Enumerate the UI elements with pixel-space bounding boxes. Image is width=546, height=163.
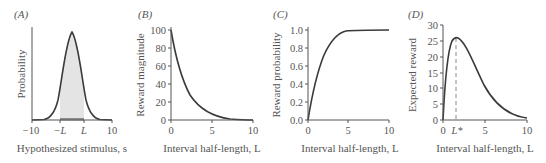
x-axis-label: Interval half-length, L (301, 142, 399, 154)
x-tick: −L (54, 125, 67, 136)
y-tick: 10 (428, 83, 439, 94)
x-tick: −10 (23, 125, 39, 136)
y-tick: 15 (428, 68, 439, 79)
panel-b: (B) 100 80 60 40 20 0 0 5 10 Interval ha… (134, 8, 261, 154)
y-axis-label: Reward probability (270, 32, 282, 118)
reward-probability-curve (308, 30, 389, 120)
x-tick: 0 (440, 125, 445, 136)
x-tick: 5 (345, 125, 350, 136)
y-tick: 1.0 (290, 25, 303, 36)
panel-d: (D) 30 25 20 15 10 5 0 0 L* 5 10 Interva… (406, 8, 534, 154)
x-tick: 0 (168, 125, 173, 136)
y-tick: 0.6 (290, 61, 303, 72)
y-axis-label: Probability (15, 49, 27, 98)
y-tick: 20 (156, 97, 167, 108)
x-tick: 5 (482, 125, 487, 136)
panel-b-label: (B) (138, 8, 152, 21)
shaded-interval-area (60, 33, 84, 120)
panel-d-label: (D) (408, 8, 424, 21)
x-tick: 10 (384, 125, 395, 136)
reward-magnitude-curve (171, 30, 253, 120)
y-tick: 100 (150, 25, 166, 36)
y-tick: 30 (428, 20, 439, 31)
x-tick: L (80, 125, 87, 136)
y-tick: 20 (428, 52, 439, 63)
panel-c: (C) 1.0 0.8 0.6 0.4 0.2 0.0 0 5 10 Inter… (270, 8, 399, 154)
y-tick: 0.4 (290, 79, 304, 90)
expected-reward-curve (443, 38, 527, 120)
x-axis-label: Interval half-length, L (436, 142, 534, 154)
panel-a-label: (A) (14, 8, 28, 21)
y-tick: 25 (428, 36, 439, 47)
x-tick: 0 (305, 125, 310, 136)
y-axis-label: Reward magnitude (134, 33, 146, 117)
y-axis-label: Expected reward (406, 37, 418, 112)
y-tick: 0.0 (290, 115, 303, 126)
x-tick-l-star: L* (450, 125, 463, 136)
y-tick: 60 (156, 61, 167, 72)
y-tick: 5 (433, 99, 438, 110)
y-tick: 80 (156, 43, 167, 54)
x-tick: 10 (107, 125, 118, 136)
panel-a: (A) −10 −L L 10 Hypothesized stimulus, s… (14, 8, 127, 154)
y-tick: 0.2 (290, 97, 303, 108)
x-tick: 10 (248, 125, 259, 136)
x-axis-label: Interval half-length, L (163, 142, 261, 154)
y-tick: 0 (433, 115, 438, 126)
x-axis-label: Hypothesized stimulus, s (17, 142, 127, 154)
y-tick: 40 (156, 79, 167, 90)
panel-c-label: (C) (273, 8, 288, 21)
x-tick: 10 (522, 125, 533, 136)
y-tick: 0 (161, 115, 166, 126)
figure: (A) −10 −L L 10 Hypothesized stimulus, s… (0, 0, 546, 163)
x-tick: 5 (209, 125, 214, 136)
y-tick: 0.8 (290, 43, 303, 54)
